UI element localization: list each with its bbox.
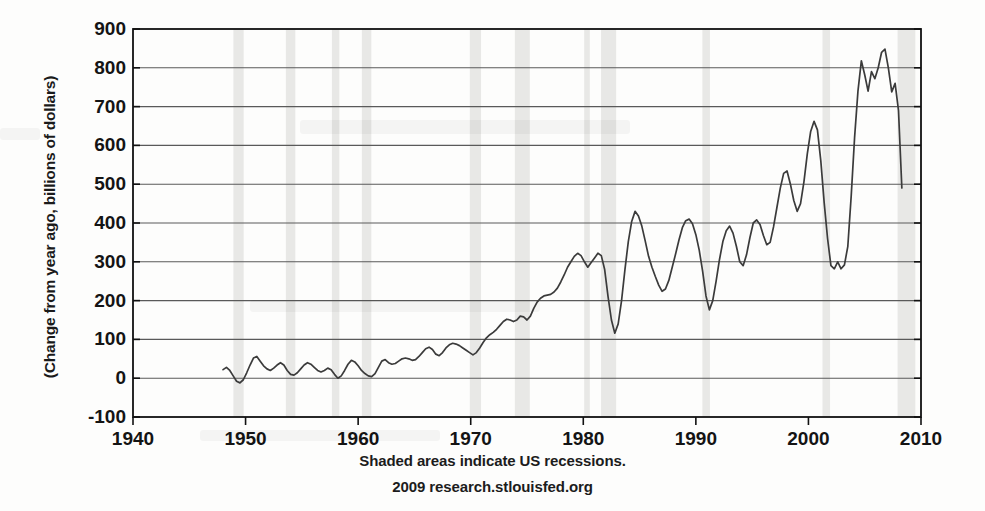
- plot-canvas: [0, 0, 985, 511]
- scan-smudge: [250, 300, 540, 312]
- source-caption: 2009 research.stlouisfed.org: [0, 478, 985, 495]
- scan-smudge: [0, 128, 40, 140]
- scan-smudge: [200, 430, 440, 441]
- chart-figure: (Change from year ago, billions of dolla…: [0, 0, 985, 511]
- scan-smudge: [300, 120, 630, 134]
- recession-note-caption: Shaded areas indicate US recessions.: [0, 452, 985, 469]
- data-line: [223, 49, 902, 383]
